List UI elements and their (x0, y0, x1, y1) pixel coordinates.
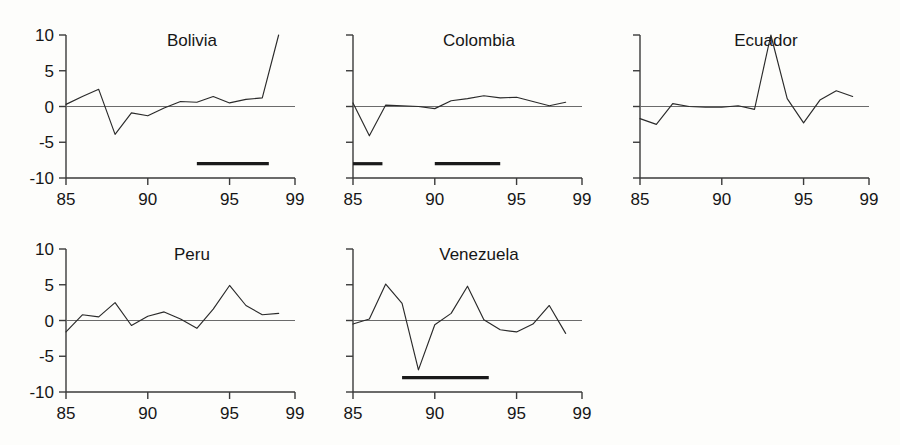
small-multiples-chart: 1050-5-1085909599Bolivia85909599Colombia… (0, 0, 900, 445)
panel-title-venezuela: Venezuela (439, 245, 519, 264)
x-tick-label: 85 (57, 404, 76, 423)
y-tick-label: 5 (45, 62, 54, 81)
x-tick-label: 95 (220, 404, 239, 423)
x-tick-label: 99 (286, 404, 305, 423)
series-line-peru (66, 285, 279, 331)
y-tick-label: -5 (39, 133, 54, 152)
x-tick-label: 90 (138, 404, 157, 423)
x-tick-label: 90 (712, 190, 731, 209)
panel-colombia: 85909599Colombia (344, 31, 592, 209)
panel-title-ecuador: Ecuador (734, 31, 798, 50)
y-tick-label: 0 (45, 98, 54, 117)
y-tick-label: 5 (45, 276, 54, 295)
panel-title-bolivia: Bolivia (167, 31, 218, 50)
panel-title-peru: Peru (174, 245, 210, 264)
panel-bolivia: 1050-5-1085909599Bolivia (29, 26, 304, 209)
panel-ecuador: 85909599Ecuador (631, 31, 879, 209)
y-tick-label: 0 (45, 312, 54, 331)
y-tick-label: -5 (39, 347, 54, 366)
x-tick-label: 85 (344, 190, 363, 209)
x-tick-label: 99 (860, 190, 879, 209)
x-tick-label: 90 (425, 404, 444, 423)
x-tick-label: 95 (507, 190, 526, 209)
series-line-colombia (353, 96, 566, 136)
x-tick-label: 85 (344, 404, 363, 423)
x-tick-label: 95 (794, 190, 813, 209)
series-line-venezuela (353, 284, 566, 370)
panel-peru: 1050-5-1085909599Peru (29, 240, 304, 423)
x-tick-label: 99 (573, 404, 592, 423)
x-tick-label: 90 (425, 190, 444, 209)
y-tick-label: 10 (35, 26, 54, 45)
x-tick-label: 99 (286, 190, 305, 209)
x-tick-label: 99 (573, 190, 592, 209)
panel-venezuela: 85909599Venezuela (344, 245, 592, 423)
x-tick-label: 95 (507, 404, 526, 423)
x-tick-label: 85 (631, 190, 650, 209)
panel-title-colombia: Colombia (443, 31, 515, 50)
y-tick-label: 10 (35, 240, 54, 259)
y-tick-label: -10 (29, 169, 54, 188)
y-tick-label: -10 (29, 383, 54, 402)
x-tick-label: 95 (220, 190, 239, 209)
x-tick-label: 90 (138, 190, 157, 209)
x-tick-label: 85 (57, 190, 76, 209)
figure-container: 1050-5-1085909599Bolivia85909599Colombia… (0, 0, 900, 445)
